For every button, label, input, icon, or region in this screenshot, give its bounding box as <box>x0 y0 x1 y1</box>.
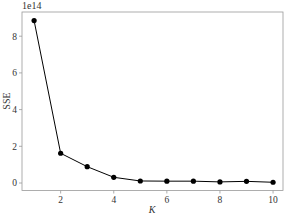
sse-elbow-chart: 246810 02468 1e14 K SSE <box>0 0 287 223</box>
x-tick-label: 8 <box>218 195 223 205</box>
data-point-marker <box>164 179 169 184</box>
y-tick-label: 6 <box>12 68 17 78</box>
x-axis-ticks: 246810 <box>58 191 278 205</box>
y-axis-label: SSE <box>1 92 12 109</box>
y-tick-label: 2 <box>12 142 17 152</box>
data-point-marker <box>270 180 275 185</box>
y-tick-label: 0 <box>12 178 17 188</box>
sse-markers <box>31 18 275 185</box>
x-tick-label: 6 <box>164 195 169 205</box>
y-tick-label: 8 <box>12 32 17 42</box>
y-offset-label: 1e14 <box>22 0 41 11</box>
data-point-marker <box>111 175 116 180</box>
y-axis-ticks: 02468 <box>12 32 22 189</box>
data-point-marker <box>138 178 143 183</box>
data-point-marker <box>217 179 222 184</box>
x-tick-label: 10 <box>268 195 278 205</box>
x-axis-label: K <box>148 204 157 215</box>
y-tick-label: 4 <box>12 105 17 115</box>
data-point-marker <box>244 179 249 184</box>
sse-line <box>34 21 273 183</box>
data-point-marker <box>31 18 36 23</box>
x-tick-label: 4 <box>111 195 116 205</box>
x-tick-label: 2 <box>58 195 63 205</box>
plot-frame <box>22 12 283 191</box>
data-point-marker <box>58 151 63 156</box>
data-point-marker <box>85 164 90 169</box>
data-point-marker <box>191 179 196 184</box>
